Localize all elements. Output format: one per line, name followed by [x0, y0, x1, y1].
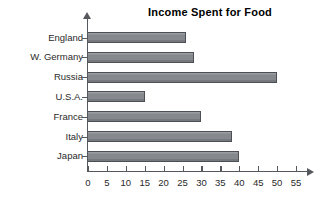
x-axis-arrow-icon: [307, 168, 314, 176]
bar-england: [88, 32, 186, 43]
x-tick-label: 0: [85, 177, 90, 188]
x-tick-mark: [258, 166, 259, 171]
x-tick-mark: [296, 166, 297, 171]
x-tick-mark: [220, 166, 221, 171]
x-tick-mark: [145, 166, 146, 171]
x-tick-mark: [183, 166, 184, 171]
x-tick-label: 25: [177, 177, 188, 188]
category-tick: [82, 156, 87, 157]
x-tick-label: 5: [104, 177, 109, 188]
x-tick-mark: [107, 166, 108, 171]
category-label: Japan: [57, 150, 83, 161]
category-label: France: [53, 111, 83, 122]
category-tick: [82, 77, 87, 78]
category-label: Russia: [54, 71, 83, 82]
x-tick-label: 40: [234, 177, 245, 188]
bar-russia: [88, 72, 277, 83]
category-label: Italy: [66, 131, 83, 142]
x-tick-mark: [88, 166, 89, 171]
bar-france: [88, 111, 201, 122]
category-label: U.S.A.: [56, 91, 83, 102]
category-tick: [82, 117, 87, 118]
category-label: England: [48, 32, 83, 43]
category-label: W. Germany: [30, 51, 83, 62]
x-tick-mark: [201, 166, 202, 171]
plot-area: EnglandW. GermanyRussiaU.S.A.FranceItaly…: [0, 0, 336, 201]
x-tick-label: 35: [215, 177, 226, 188]
x-tick-mark: [164, 166, 165, 171]
bar-italy: [88, 131, 232, 142]
x-tick-mark: [126, 166, 127, 171]
category-tick: [82, 97, 87, 98]
bar-chart: Income Spent for Food EnglandW. GermanyR…: [0, 0, 336, 201]
x-tick-label: 45: [253, 177, 264, 188]
x-tick-mark: [277, 166, 278, 171]
x-tick-label: 50: [272, 177, 283, 188]
x-tick-mark: [239, 166, 240, 171]
x-tick-label: 55: [291, 177, 302, 188]
x-tick-label: 20: [158, 177, 169, 188]
y-axis-arrow-icon: [83, 12, 91, 19]
bar-u-s-a: [88, 91, 145, 102]
x-tick-label: 30: [196, 177, 207, 188]
x-axis-line: [87, 171, 311, 172]
category-tick: [82, 38, 87, 39]
bar-japan: [88, 151, 239, 162]
x-tick-label: 10: [121, 177, 132, 188]
category-tick: [82, 57, 87, 58]
bar-w-germany: [88, 52, 194, 63]
category-tick: [82, 137, 87, 138]
x-tick-label: 15: [139, 177, 150, 188]
